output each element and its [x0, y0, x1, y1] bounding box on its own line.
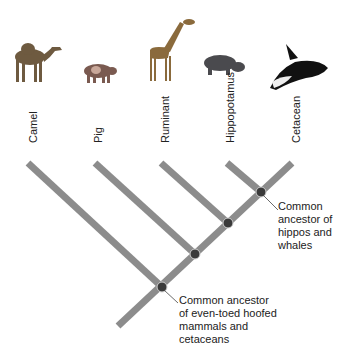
orca-icon: [270, 44, 328, 90]
branch-ruminant: [161, 163, 228, 223]
callout-hippo-whale: Common ancestor of hippos and whales: [278, 200, 332, 252]
node-pig: [190, 249, 200, 259]
node-ruminant: [223, 218, 233, 228]
leader-root: [164, 290, 178, 303]
giraffe-icon: [150, 19, 195, 81]
taxon-label-hippo: Hippopotamus: [224, 72, 236, 143]
camel-icon: [15, 43, 62, 82]
node-root: [157, 282, 167, 292]
branch-camel: [28, 163, 162, 287]
node-hippo-whale: [256, 187, 266, 197]
taxon-label-cetacean: Cetacean: [290, 96, 302, 143]
taxon-label-pig: Pig: [92, 127, 104, 143]
leader-hippo-whale: [263, 195, 278, 210]
cladogram: [0, 0, 346, 352]
taxon-label-ruminant: Ruminant: [159, 96, 171, 143]
branch-hippo: [227, 163, 261, 192]
taxon-label-camel: Camel: [27, 111, 39, 143]
callout-root: Common ancestor of even-toed hoofed mamm…: [179, 294, 277, 346]
pig-icon: [84, 64, 117, 83]
